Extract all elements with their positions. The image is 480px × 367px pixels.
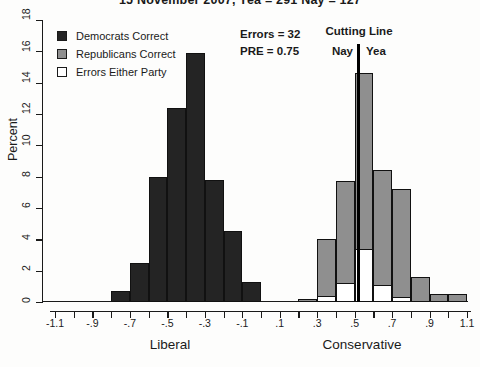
histogram-bar-republican [317, 239, 336, 302]
histogram-bar-democrat [205, 180, 224, 302]
x-tick-label: .7 [388, 317, 397, 329]
democrats-correct-swatch-icon [57, 31, 67, 41]
legend-item-republicans-correct: Republicans Correct [57, 45, 176, 63]
x-tick-label: .1 [275, 317, 284, 329]
figure-title: 15 November 2007, Yea = 291 Nay = 127 [0, 0, 480, 7]
republicans-correct-swatch-icon [57, 49, 67, 59]
histogram-bar-errors [392, 297, 411, 302]
histogram-bar-democrat [242, 282, 261, 302]
yea-side-label: Yea [366, 45, 386, 57]
legend-label: Errors Either Party [76, 66, 166, 78]
pre-annotation: PRE = 0.75 [240, 43, 300, 60]
x-tick-label: .9 [425, 317, 434, 329]
histogram-bar-democrat [224, 231, 243, 302]
x-tick [261, 311, 262, 318]
x-tick-label: -.7 [124, 317, 136, 329]
y-tick [36, 208, 42, 209]
cutting-line [357, 44, 360, 302]
x-axis-label-conservative: Conservative [323, 337, 402, 352]
x-tick [448, 311, 449, 318]
errors-either-party-swatch-icon [57, 67, 67, 77]
y-tick [36, 271, 42, 272]
legend: Democrats Correct Republicans Correct Er… [57, 27, 176, 81]
x-tick [74, 311, 75, 318]
legend-label: Democrats Correct [76, 30, 168, 42]
x-tick-label: -.9 [86, 317, 98, 329]
errors-annotation: Errors = 32 [240, 26, 300, 43]
roll-call-histogram-figure: 15 November 2007, Yea = 291 Nay = 127 De… [0, 0, 480, 367]
y-tick [36, 51, 42, 52]
histogram-bar-errors [373, 285, 392, 302]
x-tick-label: -1.1 [46, 317, 64, 329]
histogram-bar-republican [392, 189, 411, 302]
x-tick-label: -.3 [199, 317, 211, 329]
y-tick [36, 177, 42, 178]
cutting-line-title: Cutting Line [299, 25, 419, 37]
x-tick [411, 311, 412, 318]
x-tick [186, 311, 187, 318]
fit-statistics: Errors = 32 PRE = 0.75 [240, 26, 300, 60]
nay-side-label: Nay [293, 45, 353, 57]
x-tick-label: .3 [313, 317, 322, 329]
histogram-bar-democrat [149, 177, 168, 302]
histogram-bar-republican [373, 170, 392, 302]
histogram-bar-democrat [130, 263, 149, 302]
x-tick [336, 311, 337, 318]
y-axis-spine [42, 20, 43, 303]
histogram-bar-democrat [111, 291, 130, 302]
histogram-bar-republican [430, 294, 449, 302]
x-tick [298, 311, 299, 318]
legend-label: Republicans Correct [76, 48, 176, 60]
x-tick [111, 311, 112, 318]
y-tick [36, 239, 42, 240]
y-tick [36, 83, 42, 84]
x-tick-label: 1.1 [460, 317, 475, 329]
histogram-bar-democrat [186, 53, 205, 302]
y-tick [36, 20, 42, 21]
legend-item-errors-either-party: Errors Either Party [57, 63, 176, 81]
histogram-bar-republican [411, 277, 430, 302]
histogram-bar-republican [448, 294, 467, 302]
x-tick [149, 311, 150, 318]
x-tick-label: -.1 [236, 317, 248, 329]
y-tick [36, 114, 42, 115]
x-tick-label: .5 [350, 317, 359, 329]
histogram-bar-republican [298, 299, 317, 302]
legend-item-democrats-correct: Democrats Correct [57, 27, 176, 45]
histogram-bar-democrat [167, 108, 186, 302]
x-axis-label-liberal: Liberal [150, 337, 191, 352]
x-tick [373, 311, 374, 318]
histogram-bar-errors [317, 296, 336, 302]
x-tick-label: -.5 [161, 317, 173, 329]
y-tick [36, 145, 42, 146]
histogram-bar-errors [336, 283, 355, 302]
x-tick [224, 311, 225, 318]
